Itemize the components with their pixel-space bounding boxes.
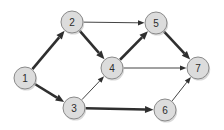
node-circle[interactable] [154,99,176,121]
node-circle[interactable] [63,97,85,119]
node-circle[interactable] [101,57,123,79]
node-circle[interactable] [61,11,83,33]
node-circle[interactable] [14,67,36,89]
arrowhead-icon [185,77,191,84]
edge-3-to-4 [82,76,104,99]
edge-line [80,31,99,53]
node-circle[interactable] [187,57,209,79]
node-1[interactable]: 1 [14,67,37,91]
edge-line [32,37,59,69]
edge-5-to-7 [164,31,190,59]
arrowhead-icon [138,20,145,25]
edge-line [82,81,100,100]
edge-3-to-6 [86,106,154,113]
edge-line [86,108,146,109]
node-6[interactable]: 6 [154,99,177,123]
node-7[interactable]: 7 [187,57,210,81]
edge-line [120,37,142,59]
edge-2-to-4 [80,31,105,60]
edge-line [164,31,185,53]
diagram-canvas: 1234567 [0,0,224,130]
edge-6-to-7 [172,77,191,101]
edge-line [35,84,57,98]
edge-1-to-2 [32,31,64,69]
edge-4-to-5 [120,31,148,60]
edge-4-to-7 [124,65,187,70]
arrowhead-icon [180,65,187,70]
node-5[interactable]: 5 [145,12,168,36]
edge-line [84,22,139,23]
edge-2-to-5 [84,20,145,25]
node-circle[interactable] [145,12,167,34]
edge-1-to-3 [35,84,64,102]
edge-line [172,82,187,101]
node-4[interactable]: 4 [101,57,124,81]
node-3[interactable]: 3 [63,97,86,121]
arrowhead-icon [145,106,154,113]
graph-svg: 1234567 [0,0,224,130]
